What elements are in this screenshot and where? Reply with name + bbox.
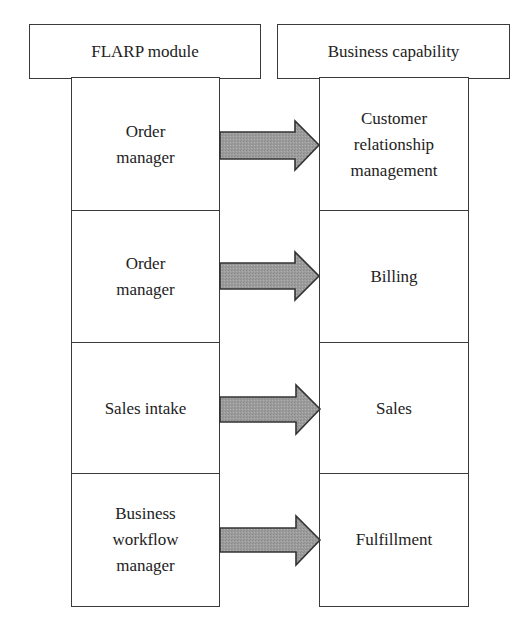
arrow-right-icon bbox=[220, 516, 320, 565]
arrow-right-icon bbox=[220, 252, 319, 300]
arrows-layer bbox=[0, 0, 523, 630]
arrow-right-icon bbox=[220, 385, 320, 434]
arrow-right-icon bbox=[220, 121, 319, 170]
